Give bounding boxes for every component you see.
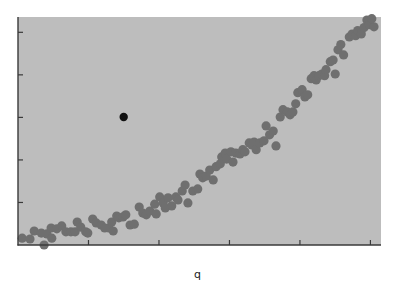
data-point (47, 234, 56, 243)
data-point (339, 50, 348, 59)
data-point (228, 158, 237, 167)
data-point (83, 229, 92, 238)
data-point (18, 234, 27, 243)
data-point (336, 40, 345, 49)
data-point (331, 69, 340, 78)
data-point (193, 184, 202, 193)
x-axis-label: q (0, 269, 395, 281)
data-point (269, 126, 278, 135)
data-point (152, 209, 161, 218)
data-point (367, 14, 376, 23)
data-point (183, 198, 192, 207)
data-point (25, 234, 34, 243)
data-point (329, 55, 338, 64)
data-point (173, 195, 182, 204)
data-point (303, 90, 312, 99)
scatter-chart (0, 0, 395, 285)
data-point (288, 107, 297, 116)
data-point (369, 22, 378, 31)
data-point (271, 141, 280, 150)
highlighted-point (120, 113, 128, 121)
data-point (321, 65, 330, 74)
plot-background (18, 17, 381, 245)
data-point (181, 180, 190, 189)
data-point (240, 147, 249, 156)
data-point (291, 99, 300, 108)
data-point (121, 210, 130, 219)
data-point (109, 226, 118, 235)
data-point (164, 193, 173, 202)
data-point (130, 220, 139, 229)
data-point (209, 175, 218, 184)
